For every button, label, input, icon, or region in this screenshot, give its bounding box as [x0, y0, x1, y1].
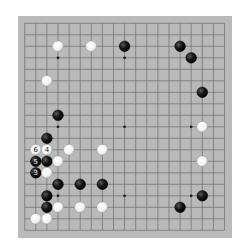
star-point [57, 125, 60, 128]
white-stone[interactable] [197, 156, 208, 167]
black-stone[interactable] [175, 202, 186, 213]
star-point [123, 125, 126, 128]
go-board-grid[interactable]: 6453 [18, 16, 232, 238]
black-stone[interactable] [197, 87, 208, 98]
black-stone[interactable] [42, 190, 53, 201]
white-stone[interactable] [64, 144, 75, 155]
black-stone[interactable] [119, 41, 130, 52]
black-stone[interactable]: 5 [30, 156, 41, 167]
star-point [190, 125, 193, 128]
star-point [57, 194, 60, 197]
black-stone[interactable] [42, 202, 53, 213]
star-point [190, 194, 193, 197]
move-number-label: 5 [34, 158, 38, 166]
white-stone[interactable] [42, 75, 53, 86]
black-stone[interactable] [97, 179, 108, 190]
white-stone[interactable] [42, 167, 53, 178]
white-stone[interactable] [42, 213, 53, 224]
black-stone[interactable] [53, 110, 64, 121]
white-stone[interactable] [53, 41, 64, 52]
white-stone[interactable] [53, 156, 64, 167]
move-number-label: 3 [34, 169, 38, 177]
white-stone[interactable] [86, 41, 97, 52]
black-stone[interactable] [75, 179, 86, 190]
white-stone[interactable] [197, 121, 208, 132]
black-stone[interactable]: 3 [30, 167, 41, 178]
white-stone[interactable]: 6 [30, 144, 41, 155]
star-point [123, 194, 126, 197]
white-stone[interactable] [97, 202, 108, 213]
move-number-label: 4 [45, 146, 50, 154]
black-stone[interactable] [175, 41, 186, 52]
white-stone[interactable] [97, 144, 108, 155]
star-point [123, 56, 126, 59]
white-stone[interactable] [75, 202, 86, 213]
move-number-label: 6 [34, 146, 39, 154]
black-stone[interactable] [186, 52, 197, 63]
go-board[interactable]: 6453 [18, 16, 232, 238]
black-stone[interactable] [42, 133, 53, 144]
star-point [57, 56, 60, 59]
white-stone[interactable]: 4 [42, 144, 53, 155]
black-stone[interactable] [53, 179, 64, 190]
black-stone[interactable] [197, 190, 208, 201]
white-stone[interactable] [53, 202, 64, 213]
black-stone[interactable] [42, 156, 53, 167]
white-stone[interactable] [30, 213, 41, 224]
